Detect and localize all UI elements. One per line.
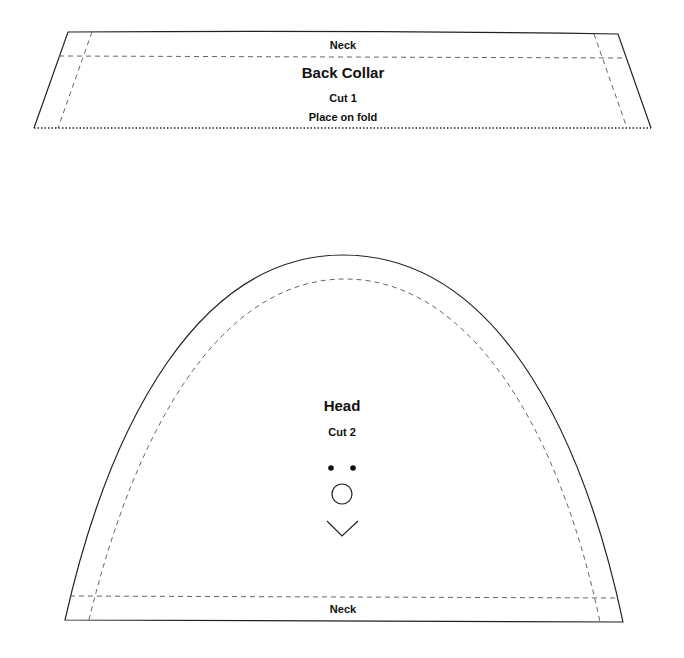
collar-title: Back Collar [302, 64, 385, 81]
head-piece: Head Cut 2 Neck [65, 255, 623, 622]
collar-fold-note: Place on fold [309, 111, 377, 123]
nose-circle-icon [332, 484, 352, 504]
head-title: Head [324, 397, 361, 414]
collar-right-seam [594, 34, 627, 128]
head-seam-line [89, 279, 600, 622]
eye-dot-left-icon [328, 465, 334, 471]
collar-neck-label: Neck [330, 39, 357, 51]
head-cut-count: Cut 2 [328, 426, 356, 438]
eye-dot-right-icon [350, 465, 356, 471]
pattern-sheet: Neck Back Collar Cut 1 Place on fold Hea… [0, 0, 684, 658]
collar-cut-count: Cut 1 [329, 92, 357, 104]
head-neck-label: Neck [330, 603, 357, 615]
back-collar-piece: Neck Back Collar Cut 1 Place on fold [34, 31, 651, 128]
collar-neck-seam [59, 56, 627, 58]
mouth-v-icon [327, 521, 358, 536]
head-neck-seam [70, 596, 619, 598]
